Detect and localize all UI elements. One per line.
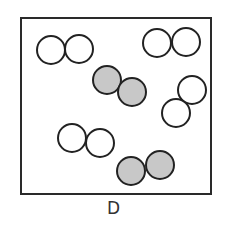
atom-gray (118, 78, 146, 106)
atom-white (172, 28, 200, 56)
atom-white (143, 29, 171, 57)
atom-white (86, 129, 114, 157)
molecule-white (37, 35, 93, 64)
atom-gray (93, 66, 121, 94)
molecule-gray (117, 151, 174, 185)
atom-white (58, 124, 86, 152)
molecules-group (37, 28, 206, 185)
molecule-gray (93, 66, 146, 106)
atom-white (162, 99, 190, 127)
atom-white (65, 35, 93, 63)
atom-gray (146, 151, 174, 179)
molecule-white (162, 76, 206, 127)
molecule-white (143, 28, 200, 57)
molecule-white (58, 124, 114, 157)
atom-white (37, 36, 65, 64)
diagram-label: D (0, 198, 227, 218)
particle-diagram (0, 0, 227, 229)
atom-gray (117, 157, 145, 185)
